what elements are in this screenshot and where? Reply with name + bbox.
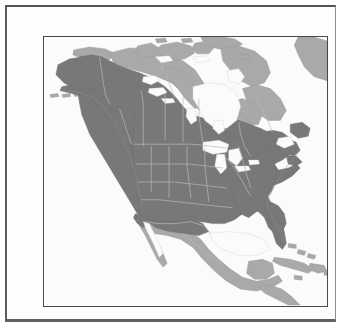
island-arctic-islet-2 — [239, 54, 251, 60]
north-america-map[interactable] — [44, 37, 327, 306]
island-arctic-islet-1 — [181, 38, 193, 43]
figure-outer-border — [5, 5, 336, 322]
island-bahamas-1 — [288, 243, 296, 248]
island-jamaica — [294, 275, 302, 280]
figure-container: Range (present) Outside range Water Nort… — [0, 0, 339, 332]
map-frame — [43, 36, 328, 307]
water-lake-ontario — [249, 160, 260, 165]
island-arctic-islet-3 — [155, 38, 167, 43]
region-yucatan — [247, 259, 275, 279]
island-puerto-rico — [324, 271, 327, 275]
